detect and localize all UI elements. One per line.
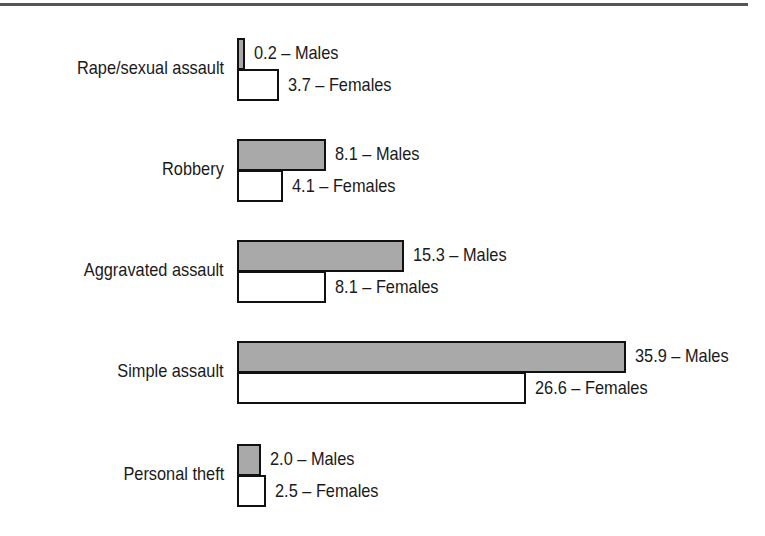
value-label-males: 8.1 – Males <box>335 142 419 166</box>
bar-males <box>237 240 404 272</box>
group-rape-sexual-assault: Rape/sexual assault 0.2 – Males 3.7 – Fe… <box>0 38 765 102</box>
category-label: Personal theft <box>123 462 224 486</box>
bar-males <box>237 139 326 171</box>
bar-males <box>237 341 626 373</box>
group-simple-assault: Simple assault 35.9 – Males 26.6 – Femal… <box>0 341 765 405</box>
group-personal-theft: Personal theft 2.0 – Males 2.5 – Females <box>0 444 765 508</box>
horizontal-bar-chart: Rape/sexual assault 0.2 – Males 3.7 – Fe… <box>0 0 765 536</box>
value-label-males: 0.2 – Males <box>254 41 338 65</box>
bar-males <box>237 444 261 476</box>
bar-females <box>237 271 326 303</box>
value-label-females: 4.1 – Females <box>292 174 396 198</box>
value-label-females: 3.7 – Females <box>288 73 392 97</box>
bar-females <box>237 475 266 507</box>
group-robbery: Robbery 8.1 – Males 4.1 – Females <box>0 139 765 203</box>
category-label: Aggravated assault <box>84 258 224 282</box>
value-label-males: 15.3 – Males <box>413 243 507 267</box>
bar-males <box>237 38 245 70</box>
value-label-females: 8.1 – Females <box>335 275 439 299</box>
bar-females <box>237 170 283 202</box>
group-aggravated-assault: Aggravated assault 15.3 – Males 8.1 – Fe… <box>0 240 765 304</box>
value-label-females: 26.6 – Females <box>535 376 648 400</box>
value-label-males: 35.9 – Males <box>635 344 729 368</box>
value-label-females: 2.5 – Females <box>275 479 379 503</box>
category-label: Robbery <box>162 157 224 181</box>
value-label-males: 2.0 – Males <box>270 447 354 471</box>
category-label: Simple assault <box>118 359 224 383</box>
category-label: Rape/sexual assault <box>77 56 224 80</box>
bar-females <box>237 69 279 101</box>
bar-females <box>237 372 526 404</box>
